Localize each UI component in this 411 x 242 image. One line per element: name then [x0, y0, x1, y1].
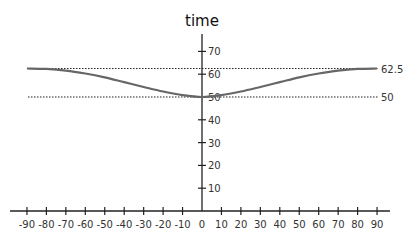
x-tick-label: 0 [199, 219, 205, 230]
x-tick-label: 60 [312, 219, 325, 230]
axes [10, 34, 390, 211]
x-tick-label: -70 [58, 219, 74, 230]
x-tick-label: -60 [77, 219, 93, 230]
y-tick-label: 30 [208, 138, 221, 149]
x-tick-label: -40 [116, 219, 132, 230]
x-tick-label: 50 [293, 219, 306, 230]
x-tick-label: 80 [351, 219, 364, 230]
x-tick-label: -80 [38, 219, 54, 230]
y-tick-label: 20 [208, 160, 221, 171]
x-tick-label: -20 [155, 219, 171, 230]
y-tick-label: 60 [208, 69, 221, 80]
y-tick-label: 40 [208, 115, 221, 126]
y-tick-label: 70 [208, 46, 221, 57]
chart-title: time [185, 12, 219, 30]
x-tick-label: 30 [254, 219, 267, 230]
x-tick-label: 90 [371, 219, 384, 230]
x-tick-label: -30 [135, 219, 151, 230]
x-tick-label: -50 [97, 219, 113, 230]
x-tick-label: 10 [215, 219, 228, 230]
x-tick-label: 70 [332, 219, 345, 230]
x-tick-label: -10 [174, 219, 190, 230]
reference-line-label: 50 [381, 92, 394, 103]
y-tick-label: 10 [208, 183, 221, 194]
x-tick-label: 40 [273, 219, 286, 230]
reference-line-label: 62.5 [381, 64, 403, 75]
x-tick-label: -90 [19, 219, 35, 230]
chart: time 62.550 -90-80-70-60-50-40-30-20-100… [0, 0, 411, 242]
x-tick-label: 20 [235, 219, 248, 230]
